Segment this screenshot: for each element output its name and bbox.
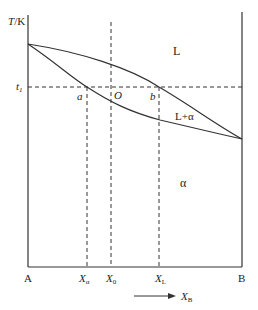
phase-diagram-svg: T/K t1 a O b L L+α α A Xα X0 XL B XB bbox=[0, 0, 258, 310]
phase-diagram: T/K t1 a O b L L+α α A Xα X0 XL B XB bbox=[0, 0, 258, 310]
composition-arrow-label: XB bbox=[180, 290, 193, 304]
tick-x-alpha: Xα bbox=[78, 272, 90, 286]
region-liquid-label: L bbox=[173, 44, 180, 58]
point-o-label: O bbox=[114, 89, 122, 101]
solidus-curve bbox=[28, 44, 242, 139]
composition-arrow-head bbox=[168, 293, 176, 299]
t1-label: t1 bbox=[16, 80, 23, 94]
region-solid-label: α bbox=[180, 176, 187, 190]
tick-xl: XL bbox=[154, 272, 166, 286]
liquidus-curve bbox=[28, 44, 242, 139]
tick-x0: X0 bbox=[105, 272, 117, 286]
point-a-label: a bbox=[77, 90, 83, 102]
y-axis-label: T/K bbox=[8, 15, 25, 27]
tick-a: A bbox=[24, 272, 32, 284]
tick-b: B bbox=[238, 272, 245, 284]
region-two-phase-label: L+α bbox=[175, 110, 194, 122]
point-b-label: b bbox=[150, 90, 156, 102]
